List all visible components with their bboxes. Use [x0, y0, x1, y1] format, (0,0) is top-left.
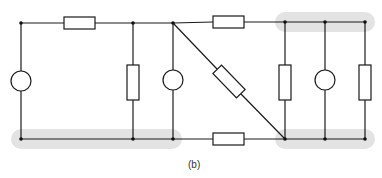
resistor-vertical-285: [279, 65, 291, 100]
node-top-365: [363, 20, 367, 24]
node-top-285: [283, 20, 287, 24]
wire-diagonal-lower: [241, 94, 285, 139]
source-325-icon: [315, 70, 335, 90]
node-top-173: [171, 21, 175, 25]
node-top-133: [131, 21, 135, 25]
wire-diagonal-upper: [173, 23, 217, 69]
resistor-vertical-133: [127, 65, 139, 100]
node-bot-365: [363, 137, 367, 141]
resistor-diagonal: [213, 65, 245, 98]
node-bot-173: [171, 137, 175, 141]
node-bot-285: [283, 137, 287, 141]
node-bot-133: [131, 137, 135, 141]
components: [11, 16, 371, 145]
source-left-icon: [11, 71, 31, 91]
node-bot-325: [323, 137, 327, 141]
resistor-top-left: [64, 17, 95, 29]
resistor-bottom: [213, 133, 244, 145]
wires: [21, 22, 365, 139]
source-173-icon: [163, 70, 183, 90]
resistor-vertical-365: [359, 65, 371, 100]
node-top-325: [323, 20, 327, 24]
wire-top-3: [173, 22, 213, 23]
node-top-left: [19, 21, 23, 25]
node-bot-left: [19, 137, 23, 141]
resistor-top-right: [213, 16, 244, 28]
figure-label: (b): [188, 159, 200, 170]
circuit-diagram: [0, 0, 382, 178]
